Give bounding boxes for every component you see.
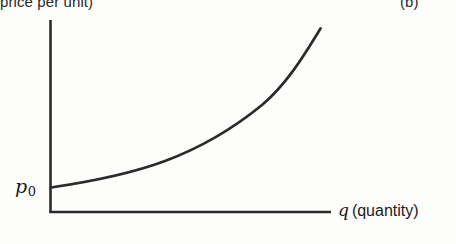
p0-symbol: p xyxy=(15,175,27,197)
x-axis-label: q(quantity) xyxy=(338,201,419,220)
supply-curve-line xyxy=(51,29,321,188)
figure-panel: price per unit) (b) p0 q(quantity) xyxy=(0,0,456,244)
x-axis-label-text: (quantity) xyxy=(352,202,419,219)
p0-axis-label: p0 xyxy=(15,177,36,201)
x-axis-symbol: q xyxy=(338,200,349,220)
p0-subscript: 0 xyxy=(28,184,36,199)
